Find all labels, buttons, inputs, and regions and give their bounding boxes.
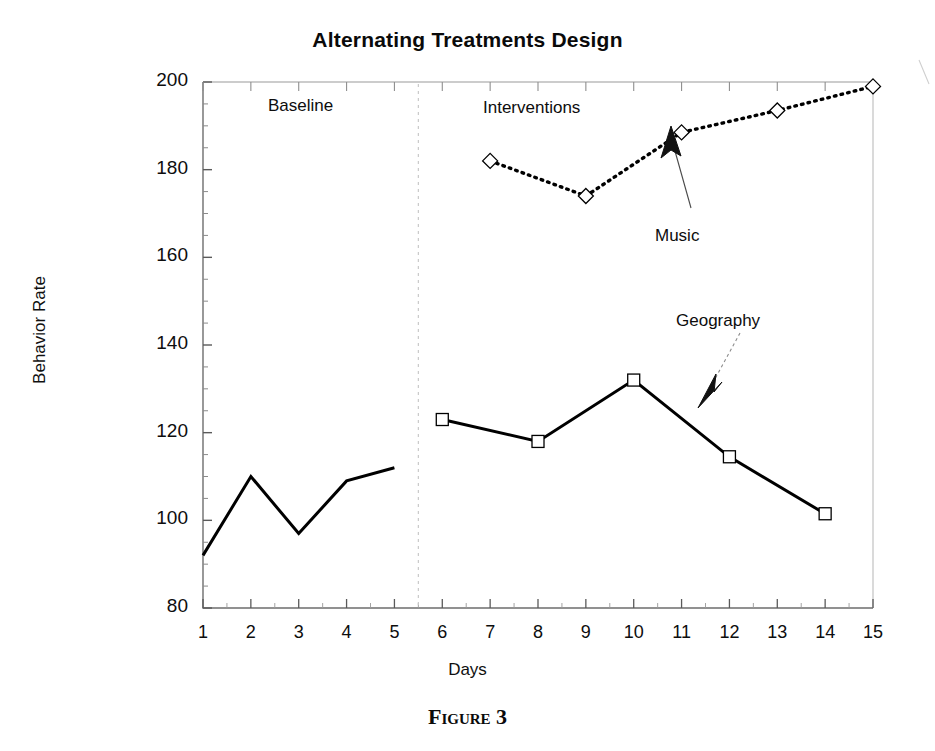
y-axis-tick-label: 80	[118, 595, 188, 617]
y-axis-tick-label: 120	[118, 420, 188, 442]
y-axis-tick-label: 200	[118, 69, 188, 91]
x-axis-tick-label: 13	[759, 622, 795, 643]
x-axis-tick-label: 15	[855, 622, 891, 643]
x-axis-tick-label: 11	[664, 622, 700, 643]
music-leader-line	[673, 144, 691, 208]
y-axis-tick-label: 160	[118, 244, 188, 266]
x-axis-tick-label: 12	[711, 622, 747, 643]
marker-diamond-music	[770, 103, 785, 118]
figure-root: Alternating Treatments Design Behavior R…	[0, 0, 935, 751]
marker-square-geography	[723, 451, 735, 463]
marker-diamond-music	[483, 153, 498, 168]
series-label-music: Music	[655, 226, 699, 246]
series-line-baseline	[203, 468, 394, 556]
x-axis-tick-label: 5	[376, 622, 412, 643]
x-axis-tick-label: 1	[185, 622, 221, 643]
marker-diamond-music	[674, 125, 689, 140]
series-label-geography: Geography	[676, 311, 760, 331]
marker-square-geography	[819, 508, 831, 520]
marker-square-geography	[436, 414, 448, 426]
series-line-geography	[442, 380, 825, 514]
y-axis-tick-label: 180	[118, 157, 188, 179]
marker-diamond-music	[866, 79, 881, 94]
x-axis-tick-label: 6	[424, 622, 460, 643]
x-axis-tick-label: 14	[807, 622, 843, 643]
x-axis-tick-label: 3	[281, 622, 317, 643]
phase-label-interventions: Interventions	[483, 98, 580, 118]
y-axis-tick-label: 100	[118, 507, 188, 529]
marker-square-geography	[628, 374, 640, 386]
scan-artifact-mark	[919, 60, 929, 84]
geography-arrowhead	[698, 374, 722, 408]
x-axis-tick-label: 7	[472, 622, 508, 643]
x-axis-tick-label: 4	[329, 622, 365, 643]
x-axis-tick-label: 8	[520, 622, 556, 643]
figure-caption: Figure 3	[0, 704, 935, 730]
x-axis-tick-label: 10	[616, 622, 652, 643]
x-axis-tick-label: 2	[233, 622, 269, 643]
phase-label-baseline: Baseline	[268, 96, 333, 116]
marker-square-geography	[532, 435, 544, 447]
y-axis-tick-label: 140	[118, 332, 188, 354]
x-axis-tick-label: 9	[568, 622, 604, 643]
